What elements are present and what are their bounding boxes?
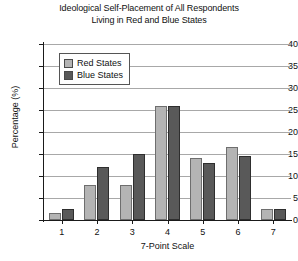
chart-title-line-2: Living in Red and Blue States [0, 14, 298, 26]
gridline [44, 44, 291, 45]
bar-red-states-6 [226, 147, 238, 220]
x-tick-mark [203, 220, 204, 224]
y-axis-label: Percentage (%) [10, 57, 20, 177]
bar-blue-states-4 [168, 106, 180, 220]
legend-label-blue-states: Blue States [77, 70, 123, 80]
chart-title-line-1: Ideological Self-Placement of All Respon… [0, 2, 298, 14]
bar-red-states-5 [190, 158, 202, 220]
x-tick-mark [132, 220, 133, 224]
x-axis-label: 7-Point Scale [44, 241, 291, 251]
x-tick-label: 5 [188, 227, 218, 237]
bar-blue-states-5 [203, 163, 215, 220]
legend-label-red-states: Red States [77, 58, 122, 68]
bar-blue-states-1 [62, 209, 74, 220]
x-tick-mark [238, 220, 239, 224]
x-tick-mark [168, 220, 169, 224]
x-tick-mark [273, 220, 274, 224]
x-tick-label: 3 [117, 227, 147, 237]
gridline [44, 88, 291, 89]
chart-title: Ideological Self-Placement of All Respon… [0, 2, 298, 26]
legend-swatch-icon-red-states [64, 59, 73, 68]
bar-red-states-7 [261, 209, 273, 220]
legend-item-red-states: Red States [64, 57, 123, 69]
x-tick-label: 1 [47, 227, 77, 237]
bar-red-states-3 [120, 185, 132, 220]
x-tick-mark [62, 220, 63, 224]
bar-blue-states-3 [133, 154, 145, 220]
bar-red-states-4 [155, 106, 167, 220]
legend-item-blue-states: Blue States [64, 69, 123, 81]
bar-blue-states-6 [239, 156, 251, 220]
legend: Red States Blue States [59, 53, 130, 85]
x-tick-label: 7 [258, 227, 288, 237]
x-tick-label: 4 [153, 227, 183, 237]
bar-blue-states-2 [97, 167, 109, 220]
x-tick-label: 6 [223, 227, 253, 237]
bar-blue-states-7 [274, 209, 286, 220]
bar-red-states-1 [49, 213, 61, 220]
x-tick-mark [97, 220, 98, 224]
bar-red-states-2 [84, 185, 96, 220]
legend-swatch-icon-blue-states [64, 71, 73, 80]
bar-chart: Ideological Self-Placement of All Respon… [0, 0, 298, 261]
x-tick-label: 2 [82, 227, 112, 237]
